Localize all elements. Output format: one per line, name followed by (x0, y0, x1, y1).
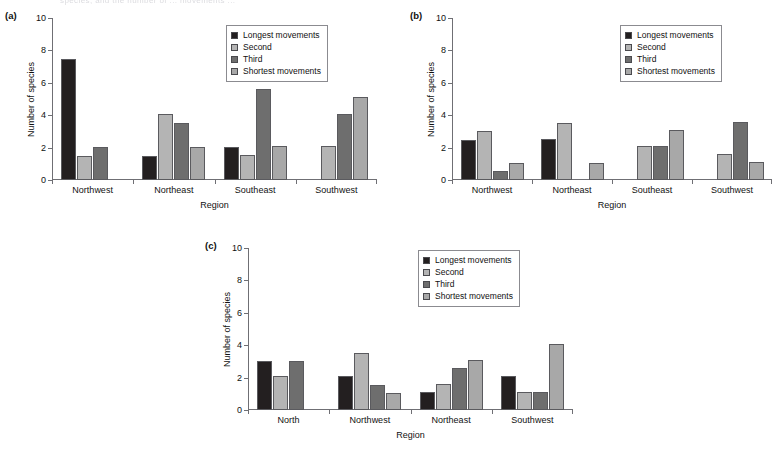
x-tick-label: Northwest (350, 415, 391, 425)
plot-area: 0246810NorthNorthwestNortheastSouthwest (248, 248, 573, 410)
x-axis-title: Region (248, 430, 573, 440)
bar (517, 392, 532, 410)
bar (289, 361, 304, 410)
bar (533, 392, 548, 410)
legend-swatch-icon (423, 269, 430, 276)
panel-label: (c) (205, 240, 217, 251)
y-tick (244, 378, 248, 379)
y-tick (244, 248, 248, 249)
legend-item[interactable]: Shortest movements (423, 291, 513, 302)
x-tick (572, 410, 573, 414)
bar (386, 393, 401, 410)
legend-swatch-icon (423, 257, 430, 264)
legend-item-label: Longest movements (435, 256, 512, 265)
bar (420, 392, 435, 410)
x-tick (411, 410, 412, 414)
y-tick-label: 2 (237, 373, 242, 382)
x-tick-label: Southwest (511, 415, 553, 425)
x-tick-label: Northeast (432, 415, 471, 425)
y-tick-label: 4 (237, 341, 242, 350)
x-tick (492, 410, 493, 414)
y-tick-label: 10 (232, 244, 242, 253)
bar (452, 368, 467, 410)
bar (338, 376, 353, 410)
bar (370, 385, 385, 410)
bar (549, 344, 564, 410)
legend-item-label: Second (435, 268, 464, 277)
y-tick (244, 345, 248, 346)
bar (436, 384, 451, 410)
legend-item-label: Third (435, 280, 454, 289)
legend-swatch-icon (423, 281, 430, 288)
axes: 0246810NorthNorthwestNortheastSouthwest (248, 248, 573, 410)
legend-swatch-icon (423, 293, 430, 300)
y-tick (244, 313, 248, 314)
y-axis-line (248, 248, 249, 410)
legend-item[interactable]: Third (423, 279, 513, 290)
bar (501, 376, 516, 410)
y-axis-title: Number of species (222, 292, 232, 367)
y-tick-label: 8 (237, 276, 242, 285)
y-tick (244, 280, 248, 281)
y-tick-label: 6 (237, 308, 242, 317)
legend-item[interactable]: Second (423, 267, 513, 278)
legend-item[interactable]: Longest movements (423, 255, 513, 266)
bar (273, 376, 288, 410)
legend-item-label: Shortest movements (435, 292, 513, 301)
x-tick-label: North (278, 415, 300, 425)
chart-legend: Longest movementsSecondThirdShortest mov… (418, 250, 520, 307)
bar (468, 360, 483, 410)
y-tick-label: 0 (237, 406, 242, 415)
x-tick (329, 410, 330, 414)
bar (354, 353, 369, 411)
bar (257, 361, 272, 410)
x-tick (248, 410, 249, 414)
chart-panel-c: (c)0246810NorthNorthwestNortheastSouthwe… (0, 0, 778, 450)
